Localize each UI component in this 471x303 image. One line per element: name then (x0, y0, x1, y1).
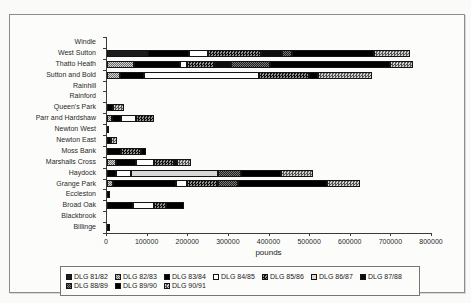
y-axis-tick (103, 48, 106, 49)
legend-item: DLG 82/83 (115, 273, 161, 280)
bar-segment (107, 159, 116, 166)
legend-item: DLG 84/85 (213, 273, 259, 280)
legend-swatch (164, 283, 170, 289)
bar-segment (144, 72, 259, 79)
legend-label: DLG 87/88 (368, 273, 402, 280)
bar-segment (107, 224, 110, 231)
bar-segment (134, 61, 180, 68)
bar-row (107, 102, 432, 113)
y-axis-tick (103, 102, 106, 103)
bar-segment (166, 202, 185, 209)
x-axis-tick (269, 233, 270, 236)
bar-segment (133, 202, 154, 209)
x-axis-tick (309, 233, 310, 236)
bar-segment (241, 170, 282, 177)
legend-item: DLG 81/82 (66, 273, 112, 280)
bar-segment (390, 61, 413, 68)
y-axis-tick (103, 168, 106, 169)
legend-swatch (66, 274, 72, 280)
chart-plot (106, 37, 432, 234)
legend-label: DLG 85/86 (270, 273, 304, 280)
y-axis-label: Queen's Park (10, 102, 100, 113)
bar-segment (116, 159, 136, 166)
bar-segment (113, 180, 176, 187)
bar-segment (113, 104, 124, 111)
bar-segment (121, 115, 136, 122)
x-axis-tick (147, 233, 148, 236)
y-axis-label: Moss Bank (10, 146, 100, 157)
bar-row (107, 179, 432, 190)
bar-row (107, 124, 432, 135)
legend-swatch (115, 283, 121, 289)
bar-segment (374, 50, 410, 57)
bar-row (107, 91, 432, 102)
bar-segment (112, 115, 121, 122)
bar-segment (107, 50, 148, 57)
legend-item: DLG 90/91 (164, 282, 210, 289)
bar-segment (187, 61, 216, 68)
legend-swatch (66, 283, 72, 289)
y-axis-tick (103, 59, 106, 60)
legend-item: DLG 87/88 (360, 273, 406, 280)
legend-label: DLG 89/90 (123, 282, 157, 289)
bar-segment (107, 202, 133, 209)
y-axis-label: Thatto Heath (10, 59, 100, 70)
bar-segment (111, 137, 117, 144)
y-axis-label: Billinge (10, 222, 100, 233)
bar-row (107, 168, 432, 179)
legend-swatch (360, 274, 366, 280)
x-axis-tick-label: 400000 (249, 238, 289, 245)
legend-label: DLG 84/85 (221, 273, 255, 280)
bar-row (107, 48, 432, 59)
bar-segment (107, 170, 116, 177)
y-axis-tick (103, 146, 106, 147)
bar-segment (107, 148, 121, 155)
y-axis-tick (103, 135, 106, 136)
x-axis-tick (106, 233, 107, 236)
legend-swatch (262, 274, 268, 280)
legend-item: DLG 89/90 (115, 282, 161, 289)
y-axis-tick (103, 91, 106, 92)
y-axis-label: Rainford (10, 91, 100, 102)
page: { "caption_fragment": "g", "colors": { "… (0, 0, 471, 303)
bar-segment (281, 170, 313, 177)
y-axis-label: Haydock (10, 168, 100, 179)
bar-row (107, 146, 432, 157)
x-axis-tick-label: 200000 (167, 238, 207, 245)
y-axis-tick (103, 37, 106, 38)
bar-segment (259, 72, 310, 79)
bar-segment (136, 159, 154, 166)
y-axis-tick (103, 124, 106, 125)
y-axis-label: Grange Park (10, 179, 100, 190)
bar-row (107, 59, 432, 70)
y-axis-label: West Sutton (10, 48, 100, 59)
bar-segment (107, 191, 110, 198)
bar-row (107, 222, 432, 233)
bar-segment (131, 170, 218, 177)
x-axis-tick (350, 233, 351, 236)
bar-row (107, 157, 432, 168)
y-axis-tick (103, 189, 106, 190)
legend-swatch (213, 274, 219, 280)
y-axis-label: Rainhill (10, 81, 100, 92)
chart-figure: WindleWest SuttonThatto HeathSutton and … (9, 14, 465, 293)
legend-label: DLG 81/82 (74, 273, 108, 280)
x-axis-tick-label: 500000 (289, 238, 329, 245)
y-axis-label: Newton East (10, 135, 100, 146)
x-axis-tick (431, 233, 432, 236)
y-axis-tick (103, 157, 106, 158)
bar-segment (154, 202, 166, 209)
bar-segment (208, 50, 261, 57)
y-axis-tick (103, 81, 106, 82)
x-axis-tick-label: 100000 (127, 238, 167, 245)
y-axis-tick (103, 200, 106, 201)
y-axis-tick (103, 113, 106, 114)
legend-swatch (115, 274, 121, 280)
x-axis-tick-label: 0 (86, 238, 126, 245)
bar-segment (120, 72, 144, 79)
bar-segment (292, 50, 374, 57)
bar-segment (187, 180, 218, 187)
x-axis-tick-label: 700000 (370, 238, 410, 245)
bar-segment (141, 148, 146, 155)
x-axis-tick (390, 233, 391, 236)
